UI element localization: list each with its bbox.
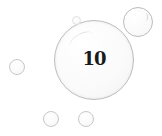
bubble-top-right <box>123 7 153 37</box>
bubble-bottom-left <box>43 111 59 127</box>
bubble-top-small <box>72 16 81 25</box>
bubble-number: 10 <box>55 48 133 69</box>
shine-highlight-icon <box>144 13 148 21</box>
bubble-left <box>9 59 25 75</box>
main-bubble: 10 <box>54 20 134 100</box>
bubble-bottom-middle <box>78 111 94 127</box>
